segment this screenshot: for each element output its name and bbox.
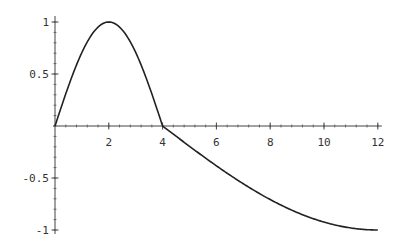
- x-tick-label: 12: [371, 136, 384, 149]
- line-chart: 2468101210.5-0.5-1: [0, 0, 406, 248]
- x-tick-label: 8: [267, 136, 274, 149]
- x-tick-label: 10: [317, 136, 330, 149]
- y-tick-label: 1: [42, 16, 49, 29]
- y-tick-label: 0.5: [29, 68, 49, 81]
- axes: [53, 16, 382, 234]
- y-tick-label: -0.5: [23, 172, 50, 185]
- x-tick-label: 4: [159, 136, 166, 149]
- y-tick-label: -1: [36, 224, 49, 237]
- x-tick-label: 6: [213, 136, 220, 149]
- x-tick-label: 2: [105, 136, 112, 149]
